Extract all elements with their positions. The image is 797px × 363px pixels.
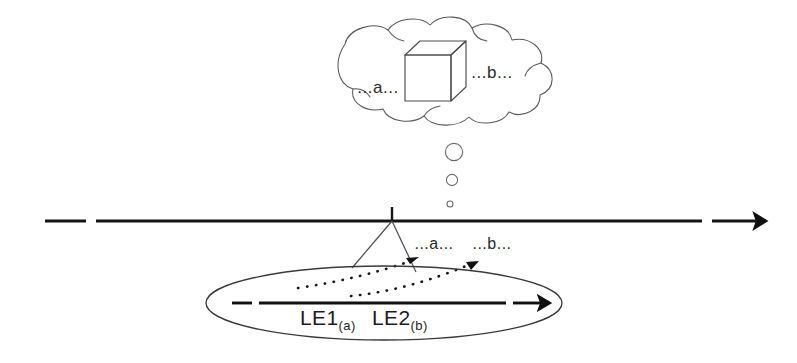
le2-label: LE2(b) <box>372 306 428 333</box>
le1-label: LE1(a) <box>300 306 356 333</box>
dotted-path-b <box>351 266 466 296</box>
linguistic-expression-labels: LE1(a) LE2(b) <box>300 306 428 333</box>
thought-bubble-trail <box>445 143 462 207</box>
cloud-seam-5 <box>424 106 440 116</box>
diagram-svg: ...a... ...b... ...a... ...b... <box>0 0 797 363</box>
le2-subscript: (b) <box>411 318 428 333</box>
cube-right-face <box>451 41 466 101</box>
cloud-outline <box>338 17 552 125</box>
le1-base: LE1 <box>300 306 339 329</box>
cloud-seam-1 <box>388 30 404 41</box>
cloud-label-a: ...a... <box>357 78 398 97</box>
projection-label-a: ...a... <box>414 235 453 252</box>
diagram-canvas: ...a... ...b... ...a... ...b... <box>0 0 797 363</box>
cube-front-face <box>405 55 451 101</box>
thought-bubble-large <box>445 143 462 160</box>
thought-cloud <box>338 17 552 125</box>
cone-left-edge <box>352 221 392 268</box>
cloud-label-b: ...b... <box>471 63 512 82</box>
cloud-seam-3 <box>525 63 541 76</box>
projection-cone <box>352 221 416 272</box>
cube-top-face <box>405 41 466 55</box>
cloud-seam-2 <box>472 28 487 41</box>
dotted-trajectories <box>298 257 479 296</box>
le2-base: LE2 <box>372 306 411 329</box>
dotted-path-b-arrowhead <box>466 261 479 270</box>
le1-subscript: (a) <box>339 318 356 333</box>
timeline-axis <box>45 207 757 222</box>
cube-icon <box>405 41 466 101</box>
projection-label-b: ...b... <box>472 235 511 252</box>
thought-bubble-medium <box>446 174 457 185</box>
thought-bubble-small <box>447 201 453 207</box>
